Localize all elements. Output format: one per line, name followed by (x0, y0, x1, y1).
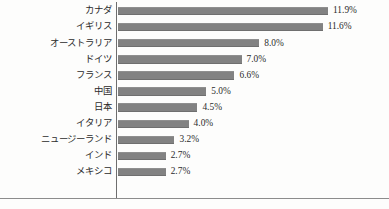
bar-row: ドイツ7.0% (0, 51, 389, 67)
bar-and-value: 4.0% (118, 116, 213, 132)
value-label: 11.6% (328, 22, 352, 31)
value-label: 7.0% (247, 55, 267, 64)
bar-and-value: 11.6% (118, 19, 352, 35)
value-label: 5.0% (211, 87, 231, 96)
bar-row: ニュージーランド3.2% (0, 132, 389, 148)
x-axis-line (0, 198, 389, 199)
bar (118, 7, 328, 15)
bar-row: イギリス11.6% (0, 19, 389, 35)
bar-row: メキシコ2.7% (0, 164, 389, 180)
category-label: イタリア (0, 119, 112, 128)
category-label: インド (0, 151, 112, 160)
category-label: 中国 (0, 87, 112, 96)
bar-and-value: 7.0% (118, 51, 266, 67)
value-label: 11.9% (333, 6, 357, 15)
bar (118, 152, 166, 160)
bar-and-value: 8.0% (118, 35, 284, 51)
clipped-caption (130, 200, 330, 209)
bar-row: イタリア4.0% (0, 116, 389, 132)
value-label: 8.0% (264, 39, 284, 48)
category-label: イギリス (0, 22, 112, 31)
bar (118, 136, 174, 144)
bar-row: オーストラリア8.0% (0, 35, 389, 51)
bar (118, 39, 259, 47)
value-label: 4.5% (202, 103, 222, 112)
bar-row: 日本4.5% (0, 100, 389, 116)
category-label: カナダ (0, 6, 112, 15)
category-label: 日本 (0, 103, 112, 112)
value-label: 2.7% (171, 167, 191, 176)
category-label: ドイツ (0, 55, 112, 64)
category-label: フランス (0, 71, 112, 80)
bar (118, 71, 234, 79)
bar-and-value: 6.6% (118, 67, 259, 83)
bar-row: 中国5.0% (0, 83, 389, 99)
value-label: 4.0% (194, 119, 214, 128)
bar (118, 55, 242, 63)
bar-and-value: 3.2% (118, 132, 199, 148)
bar-and-value: 5.0% (118, 83, 231, 99)
bar-and-value: 11.9% (118, 3, 357, 19)
bar-row: カナダ11.9% (0, 3, 389, 19)
bar (118, 23, 323, 31)
bar-and-value: 2.7% (118, 164, 190, 180)
category-label: オーストラリア (0, 39, 112, 48)
category-label: ニュージーランド (0, 135, 112, 144)
bar-and-value: 4.5% (118, 100, 222, 116)
bar-row: インド2.7% (0, 148, 389, 164)
bar (118, 120, 189, 128)
bar (118, 168, 166, 176)
value-label: 3.2% (179, 135, 199, 144)
bar (118, 103, 197, 111)
bar-rows-container: カナダ11.9%イギリス11.6%オーストラリア8.0%ドイツ7.0%フランス6… (0, 3, 389, 180)
bar-row: フランス6.6% (0, 67, 389, 83)
category-label: メキシコ (0, 167, 112, 176)
bar (118, 87, 206, 95)
bar-and-value: 2.7% (118, 148, 190, 164)
bar-chart: カナダ11.9%イギリス11.6%オーストラリア8.0%ドイツ7.0%フランス6… (0, 0, 389, 209)
value-label: 2.7% (171, 151, 191, 160)
value-label: 6.6% (239, 71, 259, 80)
